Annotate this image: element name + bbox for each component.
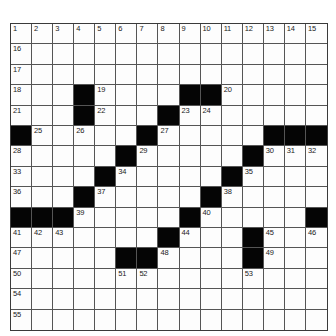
answer-cell[interactable] <box>222 310 243 330</box>
answer-cell[interactable] <box>74 269 95 289</box>
answer-cell[interactable] <box>116 208 137 228</box>
answer-cell[interactable] <box>306 187 327 207</box>
answer-cell[interactable] <box>53 269 74 289</box>
answer-cell[interactable] <box>264 208 285 228</box>
answer-cell[interactable]: 54 <box>11 289 32 309</box>
answer-cell[interactable] <box>180 65 201 85</box>
answer-cell[interactable]: 46 <box>306 228 327 248</box>
answer-cell[interactable] <box>95 269 116 289</box>
answer-cell[interactable]: 24 <box>201 106 222 126</box>
answer-cell[interactable]: 27 <box>158 126 179 146</box>
answer-cell[interactable]: 37 <box>95 187 116 207</box>
answer-cell[interactable] <box>158 187 179 207</box>
answer-cell[interactable]: 41 <box>11 228 32 248</box>
answer-cell[interactable] <box>306 44 327 64</box>
answer-cell[interactable] <box>74 65 95 85</box>
answer-cell[interactable]: 43 <box>53 228 74 248</box>
answer-cell[interactable] <box>264 310 285 330</box>
answer-cell[interactable] <box>158 310 179 330</box>
answer-cell[interactable] <box>222 126 243 146</box>
answer-cell[interactable] <box>243 65 264 85</box>
answer-cell[interactable] <box>306 85 327 105</box>
answer-cell[interactable]: 3 <box>53 24 74 44</box>
answer-cell[interactable] <box>285 106 306 126</box>
answer-cell[interactable] <box>201 289 222 309</box>
answer-cell[interactable] <box>306 269 327 289</box>
answer-cell[interactable] <box>116 126 137 146</box>
answer-cell[interactable]: 11 <box>222 24 243 44</box>
answer-cell[interactable] <box>137 65 158 85</box>
answer-cell[interactable] <box>74 228 95 248</box>
answer-cell[interactable] <box>285 248 306 268</box>
answer-cell[interactable] <box>243 310 264 330</box>
answer-cell[interactable] <box>201 248 222 268</box>
answer-cell[interactable] <box>264 289 285 309</box>
answer-cell[interactable]: 39 <box>74 208 95 228</box>
answer-cell[interactable] <box>158 289 179 309</box>
answer-cell[interactable] <box>306 106 327 126</box>
answer-cell[interactable] <box>222 289 243 309</box>
answer-cell[interactable]: 6 <box>116 24 137 44</box>
answer-cell[interactable] <box>180 44 201 64</box>
answer-cell[interactable] <box>137 310 158 330</box>
answer-cell[interactable] <box>243 85 264 105</box>
answer-cell[interactable] <box>32 44 53 64</box>
answer-cell[interactable] <box>285 187 306 207</box>
answer-cell[interactable] <box>53 310 74 330</box>
answer-cell[interactable] <box>53 126 74 146</box>
answer-cell[interactable] <box>222 106 243 126</box>
answer-cell[interactable] <box>285 208 306 228</box>
answer-cell[interactable] <box>53 248 74 268</box>
answer-cell[interactable]: 49 <box>264 248 285 268</box>
answer-cell[interactable] <box>243 44 264 64</box>
answer-cell[interactable]: 28 <box>11 146 32 166</box>
answer-cell[interactable] <box>137 228 158 248</box>
answer-cell[interactable] <box>137 187 158 207</box>
answer-cell[interactable] <box>285 167 306 187</box>
answer-cell[interactable]: 5 <box>95 24 116 44</box>
answer-cell[interactable]: 51 <box>116 269 137 289</box>
answer-cell[interactable] <box>158 269 179 289</box>
answer-cell[interactable] <box>243 106 264 126</box>
answer-cell[interactable]: 34 <box>116 167 137 187</box>
answer-cell[interactable] <box>32 65 53 85</box>
answer-cell[interactable] <box>264 269 285 289</box>
answer-cell[interactable] <box>95 208 116 228</box>
answer-cell[interactable] <box>180 248 201 268</box>
answer-cell[interactable] <box>53 106 74 126</box>
answer-cell[interactable]: 10 <box>201 24 222 44</box>
answer-cell[interactable] <box>201 310 222 330</box>
answer-cell[interactable] <box>264 85 285 105</box>
answer-cell[interactable] <box>264 187 285 207</box>
answer-cell[interactable]: 12 <box>243 24 264 44</box>
answer-cell[interactable] <box>95 248 116 268</box>
answer-cell[interactable] <box>116 310 137 330</box>
answer-cell[interactable] <box>180 146 201 166</box>
answer-cell[interactable] <box>95 146 116 166</box>
answer-cell[interactable] <box>53 85 74 105</box>
answer-cell[interactable] <box>95 310 116 330</box>
answer-cell[interactable] <box>180 126 201 146</box>
answer-cell[interactable]: 40 <box>201 208 222 228</box>
answer-cell[interactable]: 1 <box>11 24 32 44</box>
answer-cell[interactable] <box>137 85 158 105</box>
answer-cell[interactable]: 4 <box>74 24 95 44</box>
answer-cell[interactable] <box>222 248 243 268</box>
answer-cell[interactable] <box>285 310 306 330</box>
answer-cell[interactable] <box>201 44 222 64</box>
answer-cell[interactable] <box>180 289 201 309</box>
answer-cell[interactable]: 15 <box>306 24 327 44</box>
answer-cell[interactable] <box>158 146 179 166</box>
answer-cell[interactable] <box>32 146 53 166</box>
answer-cell[interactable]: 7 <box>137 24 158 44</box>
answer-cell[interactable]: 33 <box>11 167 32 187</box>
answer-cell[interactable] <box>53 187 74 207</box>
answer-cell[interactable]: 52 <box>137 269 158 289</box>
answer-cell[interactable] <box>264 65 285 85</box>
answer-cell[interactable] <box>201 126 222 146</box>
answer-cell[interactable] <box>306 289 327 309</box>
answer-cell[interactable] <box>201 65 222 85</box>
answer-cell[interactable] <box>32 248 53 268</box>
answer-cell[interactable] <box>264 106 285 126</box>
answer-cell[interactable] <box>32 106 53 126</box>
